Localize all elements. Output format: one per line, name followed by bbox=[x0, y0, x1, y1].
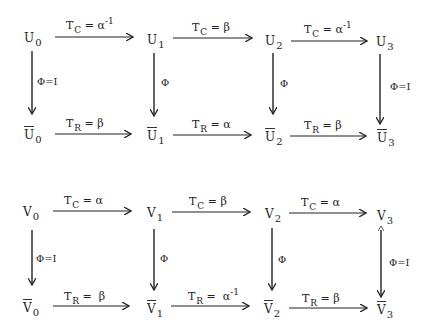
label-u-tc-1: TC = β bbox=[192, 22, 230, 34]
label-u-tc-2: TC = α-1 bbox=[304, 24, 352, 36]
v-top-arrows bbox=[53, 211, 366, 213]
v-bottom-arrows bbox=[53, 306, 367, 308]
node-u3-bar: U3 bbox=[377, 132, 395, 145]
v-vertical-arrows bbox=[32, 228, 381, 297]
label-v-tr-0: TR = β bbox=[64, 291, 105, 303]
label-v-phi-3: Φ=I bbox=[389, 258, 410, 268]
node-v1-bar: V1 bbox=[147, 303, 163, 316]
node-u1-bar: U1 bbox=[147, 130, 165, 143]
node-v1: V1 bbox=[147, 207, 163, 220]
label-v-tr-1: TR = α-1 bbox=[188, 291, 239, 303]
node-u1: U1 bbox=[147, 34, 165, 47]
label-v-tr-2: TR = β bbox=[302, 293, 340, 305]
u-vertical-arrows bbox=[32, 51, 380, 124]
node-v0: V0 bbox=[23, 206, 39, 219]
label-u-phi-2: Φ bbox=[280, 79, 288, 89]
node-v3-bar: V3 bbox=[377, 304, 393, 317]
node-u2: U2 bbox=[265, 35, 283, 48]
u-bottom-arrows bbox=[55, 134, 366, 136]
label-u-tr-0: TR = β bbox=[66, 118, 104, 130]
label-u-tr-2: TR = β bbox=[304, 120, 342, 132]
node-u0-bar: U0 bbox=[24, 129, 42, 142]
label-u-tc-0: TC = α-1 bbox=[66, 20, 114, 32]
node-u2-bar: U2 bbox=[265, 131, 283, 144]
node-u0: U0 bbox=[24, 32, 42, 45]
label-v-tc-0: TC = α bbox=[64, 195, 103, 207]
node-v2-bar: V2 bbox=[264, 303, 280, 316]
node-v2: V2 bbox=[265, 208, 281, 221]
node-v0-bar: V0 bbox=[23, 302, 39, 315]
u-top-arrows bbox=[55, 37, 367, 41]
label-v-phi-0: Φ=I bbox=[36, 254, 57, 264]
label-v-tc-2: TC = α bbox=[301, 197, 340, 209]
label-u-tr-1: TR = α bbox=[192, 119, 231, 131]
label-u-phi-3: Φ=I bbox=[390, 82, 411, 92]
label-v-phi-2: Φ bbox=[278, 255, 286, 265]
label-u-phi-0: Φ=I bbox=[37, 77, 58, 87]
diagram-arrows bbox=[0, 0, 434, 320]
node-v3: V3 bbox=[377, 210, 393, 223]
label-v-tc-1: TC = β bbox=[189, 196, 227, 208]
label-u-phi-1: Φ bbox=[161, 78, 169, 88]
node-u3: U3 bbox=[376, 36, 394, 49]
label-v-phi-1: Φ bbox=[160, 254, 168, 264]
